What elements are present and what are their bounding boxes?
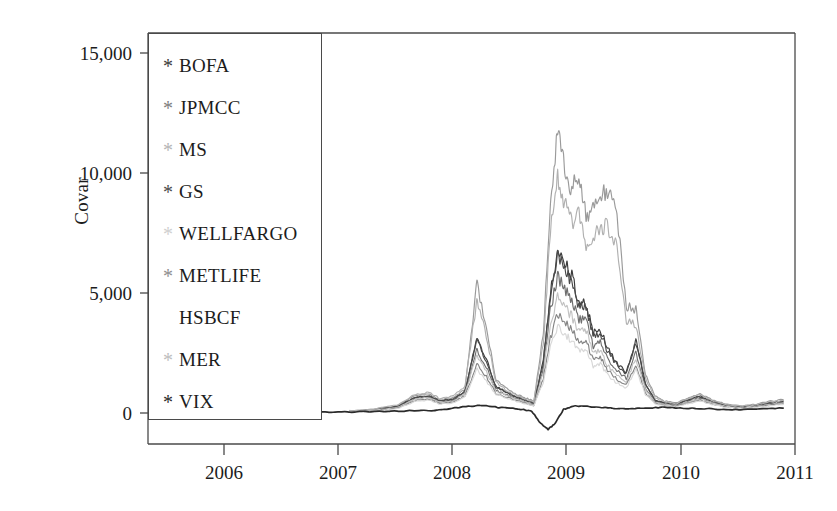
series-line-wellfargo — [350, 293, 783, 412]
legend-item-hsbcf: HSBCF — [163, 307, 241, 329]
legend-label-metlife: METLIFE — [179, 266, 261, 286]
legend-label-jpmcc: JPMCC — [179, 98, 241, 118]
legend: * BOFA * JPMCC * MS * GS * WELLFARGO * M… — [148, 33, 322, 420]
legend-marker-star-icon: * — [163, 266, 179, 286]
y-tick-label-15000: 15,000 — [14, 43, 132, 65]
legend-item-jpmcc: * JPMCC — [163, 97, 241, 119]
legend-item-metlife: * METLIFE — [163, 265, 261, 287]
legend-item-gs: * GS — [163, 181, 204, 203]
plot-canvas — [0, 0, 837, 511]
y-tick-marks — [140, 53, 148, 413]
x-tick-label-2009: 2009 — [526, 462, 606, 484]
legend-label-bofa: BOFA — [179, 56, 229, 76]
x-tick-label-2011: 2011 — [755, 462, 835, 484]
y-tick-label-10000: 10,000 — [14, 163, 132, 185]
y-tick-label-0: 0 — [14, 403, 132, 425]
legend-item-mer: * MER — [163, 349, 221, 371]
legend-item-ms: * MS — [163, 139, 207, 161]
legend-marker-star-icon: * — [163, 392, 179, 412]
covar-time-series-figure: Covar 15,000 10,000 5,000 0 2006 2007 20… — [0, 0, 837, 511]
x-tick-label-2006: 2006 — [184, 462, 264, 484]
series-line-ms — [350, 131, 783, 411]
x-tick-marks — [224, 444, 795, 455]
series-line-gs — [350, 251, 783, 412]
legend-item-bofa: * BOFA — [163, 55, 229, 77]
legend-label-hsbcf: HSBCF — [179, 308, 241, 328]
legend-label-ms: MS — [179, 140, 207, 160]
legend-label-gs: GS — [179, 182, 204, 202]
legend-marker-star-icon: * — [163, 350, 179, 370]
series-line-jpmcc — [350, 271, 783, 411]
x-tick-label-2008: 2008 — [412, 462, 492, 484]
legend-label-vix: VIX — [179, 392, 214, 412]
x-tick-label-2010: 2010 — [641, 462, 721, 484]
legend-marker-star-icon: * — [163, 140, 179, 160]
legend-marker-star-icon: * — [163, 56, 179, 76]
legend-marker-star-icon: * — [163, 98, 179, 118]
x-tick-label-2007: 2007 — [298, 462, 378, 484]
legend-label-wellfargo: WELLFARGO — [179, 224, 297, 244]
y-axis-label: Covar — [71, 141, 93, 261]
legend-marker-star-icon: * — [163, 182, 179, 202]
y-tick-label-5000: 5,000 — [14, 283, 132, 305]
legend-item-wellfargo: * WELLFARGO — [163, 223, 297, 245]
legend-item-vix: * VIX — [163, 391, 214, 413]
legend-label-mer: MER — [179, 350, 221, 370]
legend-marker-star-icon: * — [163, 224, 179, 244]
